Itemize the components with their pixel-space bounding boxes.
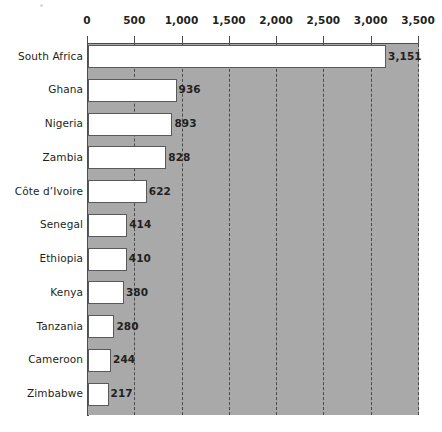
bar-value-label: 828 — [168, 151, 190, 163]
bar — [88, 113, 172, 136]
bar — [88, 146, 166, 169]
gridline — [182, 44, 183, 415]
category-label: Zimbabwe — [27, 387, 83, 399]
gridline — [323, 44, 324, 415]
gridline — [276, 44, 277, 415]
x-axis-tick-label: 2,500 — [307, 14, 341, 26]
bar — [88, 214, 127, 237]
bar-value-label: 936 — [179, 83, 201, 95]
x-axis-tick-label: 1,500 — [212, 14, 246, 26]
x-axis-tick-label: 3,000 — [354, 14, 388, 26]
bar-value-label: 244 — [113, 353, 135, 365]
category-label: Senegal — [40, 218, 83, 230]
gridline — [229, 44, 230, 415]
x-axis-tick-label: 0 — [83, 14, 90, 26]
bar — [88, 281, 124, 304]
x-axis-tick-label: 500 — [123, 14, 145, 26]
bar — [88, 45, 386, 68]
bar-value-label: 280 — [116, 320, 138, 332]
bar-value-label: 380 — [126, 286, 148, 298]
gridline — [418, 44, 419, 415]
bar — [88, 79, 177, 102]
bar-value-label: 217 — [111, 387, 133, 399]
category-label: Tanzania — [36, 320, 83, 332]
x-axis-tick-label: 3,500 — [401, 14, 435, 26]
category-label: Côte d’Ivoire — [15, 185, 83, 197]
x-axis-tick-label: 1,000 — [165, 14, 199, 26]
category-label: Kenya — [50, 286, 83, 298]
bar — [88, 315, 114, 338]
bar — [88, 383, 109, 406]
bar — [88, 248, 127, 271]
bar-value-label: 410 — [129, 252, 151, 264]
bar-chart: 05001,0001,5002,0002,5003,0003,500 South… — [0, 0, 442, 432]
category-label: Ghana — [48, 83, 83, 95]
bar-value-label: 414 — [129, 218, 151, 230]
bar-value-label: 893 — [174, 117, 196, 129]
scan-artifact-speck — [40, 4, 43, 7]
category-label: South Africa — [18, 50, 83, 62]
category-label: Ethiopia — [39, 252, 83, 264]
category-label: Cameroon — [28, 353, 83, 365]
gridline — [371, 44, 372, 415]
bar — [88, 180, 147, 203]
bar-value-label: 3,151 — [388, 50, 422, 62]
category-label: Nigeria — [45, 117, 83, 129]
x-axis-tick-label: 2,000 — [259, 14, 293, 26]
bar — [88, 349, 111, 372]
bar-value-label: 622 — [149, 185, 171, 197]
category-label: Zambia — [43, 151, 83, 163]
